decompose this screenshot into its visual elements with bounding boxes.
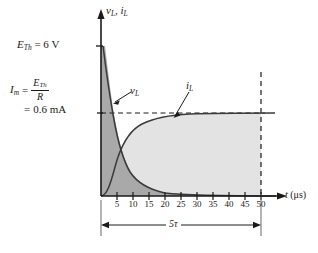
x-axis-label: t (μs) (285, 190, 306, 200)
xaxis-unit: (μs) (290, 189, 306, 200)
im-fraction-denominator: R (35, 91, 45, 103)
tau-arrowhead-left (101, 222, 109, 228)
eth-subscript: Th (24, 43, 32, 52)
label-eth: ETh = 6 V (17, 39, 59, 51)
im-subscript: m (14, 88, 19, 97)
x-tick-label: 30 (193, 199, 202, 209)
x-tick-label: 25 (177, 199, 186, 209)
yaxis-i-subscript: L (124, 9, 128, 18)
eth-symbol: E (17, 38, 24, 50)
x-tick-label: 15 (145, 199, 154, 209)
eth-value: 6 V (43, 38, 59, 50)
tau-arrowhead-right (253, 222, 261, 228)
im-fraction-numerator: ETh (31, 78, 48, 90)
il-subscript: L (189, 84, 193, 93)
im-equals-1: = (22, 85, 28, 96)
label-im-row1: Im = ETh R (10, 78, 49, 102)
label-im-row2: = 0.6 mA (24, 104, 66, 115)
curve-label-vl: vL (130, 85, 139, 97)
x-tick-label: 20 (161, 199, 170, 209)
curve-label-il: iL (186, 80, 193, 92)
leader-line-vl (115, 92, 131, 102)
eth-equals: = (34, 38, 40, 50)
x-tick-label: 45 (241, 199, 250, 209)
im-fraction: ETh R (31, 78, 48, 102)
im-equals-2: = (24, 104, 30, 115)
im-value: 0.6 mA (33, 104, 66, 115)
x-tick-label: 50 (257, 199, 266, 209)
figure-container: ETh = 6 V Im = ETh R = 0.6 mA vL, iL t (… (0, 0, 318, 253)
x-tick-label: 40 (225, 199, 234, 209)
x-tick-label: 5 (115, 199, 120, 209)
im-num-subscript: Th (39, 81, 46, 88)
x-tick-label: 10 (129, 199, 138, 209)
y-axis-label: vL, iL (106, 5, 128, 17)
label-im-block: Im = ETh R = 0.6 mA (10, 78, 66, 115)
label-5tau: 5τ (166, 219, 181, 229)
vl-subscript: L (135, 89, 139, 98)
y-axis-arrowhead (97, 9, 104, 19)
x-tick-label: 35 (209, 199, 218, 209)
im-lhs: Im (10, 84, 19, 96)
xaxis-symbol: t (285, 189, 288, 200)
